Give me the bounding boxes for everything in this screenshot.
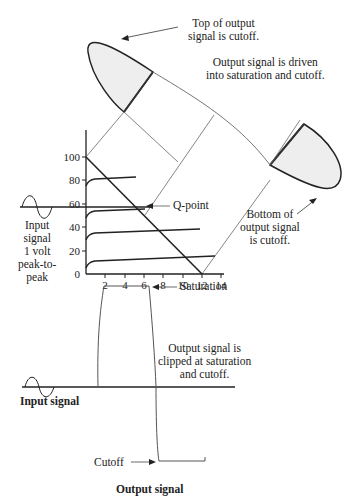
text-line: clipped at saturation	[158, 355, 251, 368]
saturation-label: Saturation	[180, 280, 227, 293]
text-line: output signal	[240, 221, 300, 234]
top-clipped-lobe	[88, 42, 153, 112]
cutoff-label: Cutoff	[94, 456, 124, 469]
svg-text:40: 40	[69, 221, 81, 233]
svg-text:60: 60	[69, 198, 81, 210]
text-line: into saturation and cutoff.	[206, 69, 325, 82]
text-line: 1 volt	[18, 245, 56, 258]
bottom-cutoff-label: Bottom of output signal is cutoff.	[240, 208, 300, 247]
driven-label: Output signal is driven into saturation …	[206, 56, 325, 82]
text-line: Output signal is driven	[206, 56, 325, 69]
text-line: is cutoff.	[240, 234, 300, 247]
text-line: peak	[18, 271, 56, 284]
text-line: Input	[18, 219, 56, 232]
svg-text:6: 6	[141, 279, 147, 291]
input-signal-title: Input signal	[20, 395, 79, 408]
q-point-label: Q-point	[173, 199, 209, 212]
bottom-clipped-lobe	[270, 124, 341, 188]
svg-text:100: 100	[64, 151, 81, 163]
text-line: Bottom of	[240, 208, 300, 221]
text-line: peak-to-	[18, 258, 56, 271]
clipped-label: Output signal is clipped at saturation a…	[158, 342, 251, 381]
svg-text:4: 4	[122, 279, 128, 291]
input-signal-description: Input signal 1 volt peak-to- peak	[18, 219, 56, 284]
svg-text:20: 20	[69, 245, 81, 257]
output-signal-title: Output signal	[116, 483, 183, 496]
text-line: Output signal is	[158, 342, 251, 355]
text-line: Top of output	[188, 17, 259, 30]
svg-text:0: 0	[75, 268, 81, 280]
svg-text:8: 8	[160, 279, 166, 291]
text-line: signal is cutoff.	[188, 30, 259, 43]
svg-text:80: 80	[69, 174, 81, 186]
load-line	[86, 157, 202, 274]
text-line: and cutoff.	[158, 368, 251, 381]
text-line: signal	[18, 232, 56, 245]
top-cutoff-label: Top of output signal is cutoff.	[188, 17, 259, 43]
